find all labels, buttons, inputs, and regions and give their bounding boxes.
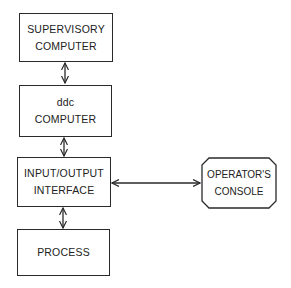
console-label-line1: OPERATOR'S (207, 166, 271, 183)
supervisory-computer-box: SUPERVISORY COMPUTER (19, 13, 113, 62)
ddc-computer-box: ddc COMPUTER (19, 85, 112, 137)
ddc-label-line1: ddc (57, 94, 75, 111)
process-box: PROCESS (17, 229, 110, 276)
io-label-line2: INTERFACE (34, 182, 95, 199)
operators-console-box: OPERATOR'S CONSOLE (202, 158, 276, 208)
io-interface-box: INPUT/OUTPUT INTERFACE (17, 157, 111, 207)
ddc-label-line2: COMPUTER (35, 111, 97, 128)
supervisory-label-line1: SUPERVISORY (27, 21, 105, 38)
process-label: PROCESS (37, 244, 90, 261)
supervisory-label-line2: COMPUTER (35, 38, 97, 55)
console-label-line2: CONSOLE (215, 183, 264, 200)
io-label-line1: INPUT/OUTPUT (24, 165, 104, 182)
